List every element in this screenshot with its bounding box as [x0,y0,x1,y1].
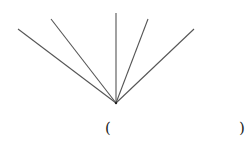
open-paren: ( [105,121,111,136]
origin-point [115,102,117,104]
ray-diagram [0,0,247,148]
close-paren: ) [239,121,245,136]
ray-5 [116,29,194,103]
ray-4 [116,19,148,103]
rays-group [18,13,194,104]
